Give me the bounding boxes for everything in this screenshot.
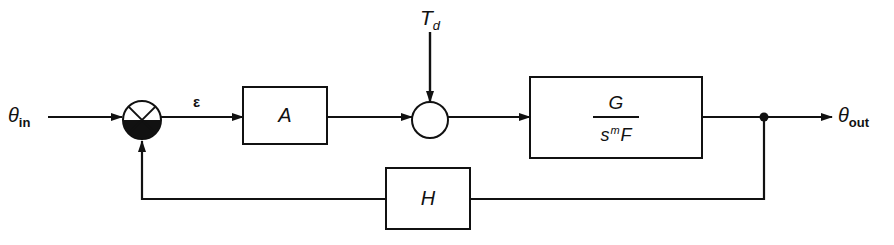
disturbance-label: Td <box>420 6 440 33</box>
disturbance-junction <box>412 102 448 138</box>
amplifier-label: A <box>243 87 327 144</box>
input-label: θin <box>8 104 30 130</box>
error-label: ε <box>193 93 200 110</box>
output-label: θout <box>838 104 869 130</box>
plant-numerator: G <box>609 92 624 114</box>
feedback-label: H <box>386 168 470 229</box>
comparator-junction <box>123 101 161 139</box>
fraction-bar <box>593 116 639 118</box>
feedback-path-left <box>142 141 386 199</box>
plant-transfer-function: G smF <box>530 92 702 146</box>
plant-denominator: smF <box>600 119 631 146</box>
